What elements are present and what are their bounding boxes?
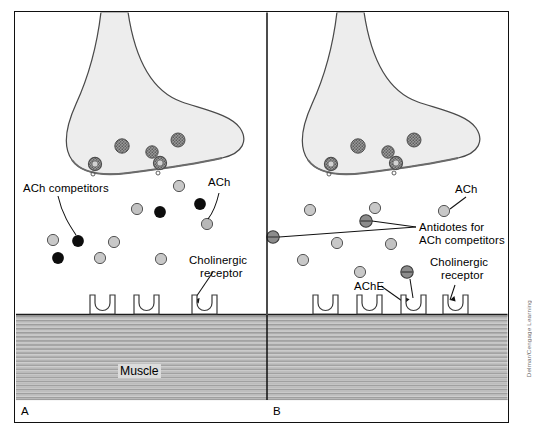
label-muscle: Muscle	[118, 364, 161, 378]
leader-ach-b	[450, 197, 466, 209]
cholinergic-receptors-a	[90, 295, 217, 314]
antidote-molecules-b	[267, 215, 372, 243]
cholinergic-receptors-b	[313, 295, 468, 314]
label-antidotes-b-line2: ACh competitors	[419, 234, 505, 247]
publisher-credit: Delmar/Cengage Learning	[525, 300, 532, 377]
vesicle-fusion-b-right	[389, 156, 402, 175]
label-cholinergic-receptor-a-line1: Cholinergic	[189, 254, 247, 267]
label-ach-competitors-a: ACh competitors	[23, 182, 109, 195]
label-antidotes-b-line1: Antidotes for	[419, 221, 484, 234]
panel-letter-a: A	[21, 405, 29, 417]
label-cholinergic-receptor-b-line2: receptor	[441, 269, 484, 282]
label-cholinergic-receptor-a-line2: receptor	[200, 267, 243, 280]
label-ach-a: ACh	[208, 176, 230, 189]
label-cholinergic-receptor-b-line1: Cholinergic	[430, 256, 488, 269]
vesicle-fusion-a-right	[153, 156, 166, 175]
muscle-band	[16, 315, 508, 400]
leader-antidotes-b-2	[279, 227, 416, 237]
leader-antidotes-b-1	[372, 221, 416, 227]
leader-ach-a	[208, 193, 219, 219]
label-ach-b: ACh	[455, 183, 477, 196]
panel-letter-b: B	[273, 405, 281, 417]
label-ache-b: AChE	[354, 280, 384, 293]
ache-entry-arrow-b	[410, 279, 413, 298]
ache-molecule-b	[401, 266, 413, 278]
leader-ach-competitors-a	[58, 196, 76, 235]
neuromuscular-junction-figure: ACh competitors ACh Cholinergic receptor…	[0, 0, 533, 442]
ach-competitor-molecules-a	[52, 198, 206, 264]
